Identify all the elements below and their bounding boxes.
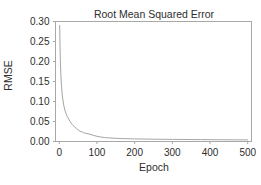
x-tick-label: 400	[194, 148, 226, 158]
x-tick-label: 200	[119, 148, 151, 158]
y-tick-label: 0.15	[20, 77, 50, 87]
x-tick-label: 500	[232, 148, 261, 158]
x-tick-label: 300	[156, 148, 188, 158]
y-tick-label: 0.25	[20, 37, 50, 47]
x-tick-label: 100	[81, 148, 113, 158]
axes-frame	[56, 22, 252, 142]
y-tick-label: 0.20	[20, 57, 50, 67]
x-tick-label: 0	[43, 148, 75, 158]
y-tick-label: 0.05	[20, 117, 50, 127]
chart-figure: Root Mean Squared Error RMSE Epoch 0.000…	[0, 0, 261, 185]
y-tick-label: 0.10	[20, 97, 50, 107]
y-tick-label: 0.30	[20, 17, 50, 27]
y-tick-label: 0.00	[20, 137, 50, 147]
